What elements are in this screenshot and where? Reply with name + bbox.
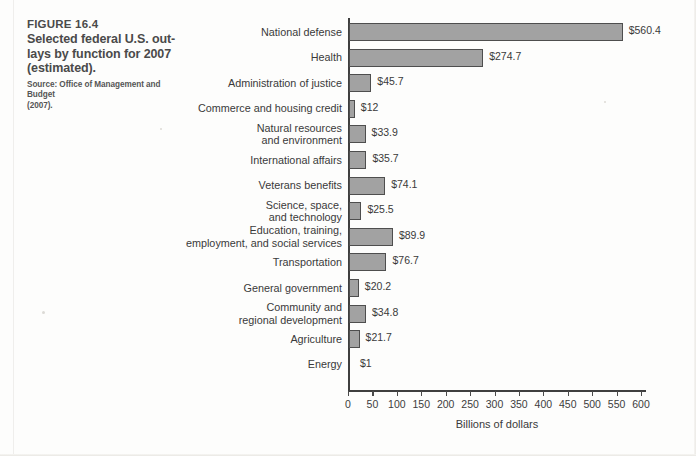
category-label-line: National defense <box>261 26 342 38</box>
category-label: Veterans benefits <box>138 179 348 192</box>
bar-value-label: $45.7 <box>377 75 403 87</box>
bar-row[interactable]: General government$20.2 <box>348 276 646 301</box>
bar-value-label: $74.1 <box>391 178 417 190</box>
bar-row[interactable]: International affairs$35.7 <box>348 148 646 173</box>
category-label-line: regional development <box>239 314 342 326</box>
bar[interactable] <box>349 253 386 271</box>
x-axis-tick <box>372 391 373 396</box>
category-label: General government <box>138 282 348 295</box>
bar[interactable] <box>349 202 361 220</box>
x-axis-tick <box>446 391 447 396</box>
category-label-line: Energy <box>308 358 342 370</box>
bar[interactable] <box>349 228 393 246</box>
bar[interactable] <box>349 23 623 41</box>
bar[interactable] <box>349 279 359 297</box>
category-label-line: Veterans benefits <box>259 179 342 191</box>
category-label-line: Community and <box>266 301 342 313</box>
bar[interactable] <box>349 177 385 195</box>
category-label: Education, training,employment, and soci… <box>138 224 348 249</box>
bar-value-label: $21.7 <box>366 331 392 343</box>
bar-row[interactable]: Veterans benefits$74.1 <box>348 174 646 199</box>
x-axis-tick <box>617 391 618 396</box>
bar-row[interactable]: Community andregional development$34.8 <box>348 302 646 327</box>
x-axis-tick <box>568 391 569 396</box>
category-label-line: Agriculture <box>290 333 342 345</box>
bar-row[interactable]: Natural resourcesand environment$33.9 <box>348 122 646 147</box>
bar-row[interactable]: Commerce and housing credit$12 <box>348 97 646 122</box>
x-axis-title: Billions of dollars <box>348 418 646 430</box>
bar[interactable] <box>349 100 355 118</box>
bar-row[interactable]: Health$274.7 <box>348 46 646 71</box>
x-axis-tick-label: 600 <box>626 398 656 410</box>
category-label: International affairs <box>138 154 348 167</box>
category-label-line: Health <box>311 51 342 63</box>
x-axis-tick <box>641 391 642 396</box>
category-label: Energy <box>138 358 348 371</box>
bar-row[interactable]: National defense$560.4 <box>348 20 646 45</box>
bar-row[interactable]: Transportation$76.7 <box>348 250 646 275</box>
category-label: Health <box>138 51 348 64</box>
bar-value-label: $560.4 <box>629 24 661 36</box>
bar-chart: National defense$560.4Health$274.7Admini… <box>0 0 696 456</box>
category-label: Natural resourcesand environment <box>138 122 348 147</box>
bar[interactable] <box>349 74 371 92</box>
category-label: Agriculture <box>138 333 348 346</box>
bar-value-label: $35.7 <box>372 152 398 164</box>
x-axis-tick <box>470 391 471 396</box>
category-label-line: International affairs <box>250 154 342 166</box>
plot-area: National defense$560.4Health$274.7Admini… <box>348 18 648 390</box>
category-label-line: Administration of justice <box>228 77 342 89</box>
bar[interactable] <box>349 305 366 323</box>
bar-value-label: $12 <box>361 101 379 113</box>
bar-row[interactable]: Science, space,and technology$25.5 <box>348 199 646 224</box>
bar-row[interactable]: Energy$1 <box>348 353 646 378</box>
bar[interactable] <box>349 49 483 67</box>
bar-value-label: $274.7 <box>489 50 521 62</box>
x-axis-line <box>348 390 646 392</box>
category-label: Commerce and housing credit <box>138 102 348 115</box>
category-label-line: and environment <box>262 134 342 146</box>
bar-row[interactable]: Education, training,employment, and soci… <box>348 225 646 250</box>
category-label-line: Education, training, <box>250 224 342 236</box>
category-label: Transportation <box>138 256 348 269</box>
category-label-line: General government <box>244 282 342 294</box>
bar-row[interactable]: Agriculture$21.7 <box>348 327 646 352</box>
category-label-line: and technology <box>269 211 342 223</box>
bar[interactable] <box>349 125 366 143</box>
category-label: National defense <box>138 26 348 39</box>
bar-value-label: $1 <box>360 357 372 369</box>
bar-value-label: $25.5 <box>367 203 393 215</box>
x-axis-tick <box>348 391 349 396</box>
x-axis-tick <box>592 391 593 396</box>
category-label-line: Transportation <box>273 256 342 268</box>
category-label-line: employment, and social services <box>186 237 342 249</box>
bar-value-label: $89.9 <box>399 229 425 241</box>
x-axis-tick <box>421 391 422 396</box>
category-label: Community andregional development <box>138 301 348 326</box>
category-label-line: Commerce and housing credit <box>198 102 342 114</box>
bar-value-label: $34.8 <box>372 306 398 318</box>
x-axis-tick <box>495 391 496 396</box>
bar-value-label: $20.2 <box>365 280 391 292</box>
x-axis-tick <box>519 391 520 396</box>
bar-value-label: $76.7 <box>392 254 418 266</box>
category-label-line: Natural resources <box>257 122 342 134</box>
x-axis-tick <box>397 391 398 396</box>
bar[interactable] <box>349 151 366 169</box>
bar[interactable] <box>349 330 360 348</box>
bar-row[interactable]: Administration of justice$45.7 <box>348 71 646 96</box>
category-label-line: Science, space, <box>266 199 342 211</box>
x-axis-tick <box>543 391 544 396</box>
category-label: Science, space,and technology <box>138 199 348 224</box>
category-label: Administration of justice <box>138 77 348 90</box>
bar-value-label: $33.9 <box>372 126 398 138</box>
